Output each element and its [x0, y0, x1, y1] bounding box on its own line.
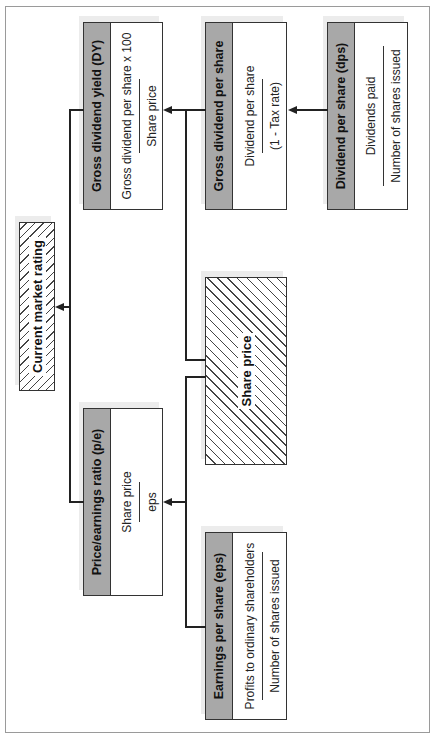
connector-line — [185, 359, 206, 361]
node-pe-ratio: Price/earnings ratio (p/e) Share price e… — [83, 408, 163, 596]
arrow-icon — [288, 106, 297, 114]
formula-numerator: Gross dividend per share x 100 — [120, 29, 137, 204]
connector-line — [296, 109, 328, 111]
node-earnings-per-share: Earnings per share (eps) Profits to ordi… — [205, 532, 287, 720]
arrow-icon — [163, 498, 172, 506]
formula-denominator: (1 - Tax rate) — [265, 82, 282, 150]
fraction-bar — [262, 552, 263, 701]
formula-denominator: Share price — [142, 85, 159, 146]
connector-line — [69, 501, 84, 503]
arrow-icon — [55, 303, 64, 311]
formula-numerator: Share price — [120, 467, 137, 536]
connector-line — [69, 109, 84, 111]
formula-numerator: Profits to ordinary shareholders — [243, 539, 260, 714]
connector-line — [171, 501, 186, 503]
node-title: Gross dividend per share — [206, 23, 233, 209]
node-title: Price/earnings ratio (p/e) — [84, 409, 111, 595]
node-title: Share price — [238, 333, 255, 410]
node-title: Earnings per share (eps) — [206, 533, 233, 719]
fraction-bar — [262, 79, 263, 153]
node-gross-dividend-per-share: Gross dividend per share Dividend per sh… — [205, 22, 287, 210]
node-title: Gross dividend yield (DY) — [84, 23, 111, 209]
node-dividend-per-share: Dividend per share (dps) Dividends paid … — [327, 22, 408, 210]
node-gross-dividend-yield: Gross dividend yield (DY) Gross dividend… — [83, 22, 163, 210]
node-title: Current market rating — [29, 237, 46, 376]
node-title: Dividend per share (dps) — [328, 23, 355, 209]
connector-line — [171, 109, 206, 111]
formula-denominator: Number of shares issued — [265, 559, 282, 692]
node-current-market-rating: Current market rating — [19, 222, 55, 391]
node-share-price: Share price — [205, 277, 287, 465]
formula-numerator: Dividends paid — [364, 73, 381, 160]
fraction-bar — [383, 46, 384, 186]
formula-denominator: Number of shares issued — [386, 49, 403, 182]
fraction-bar — [139, 79, 140, 153]
fraction-bar — [139, 482, 140, 523]
arrow-icon — [163, 106, 172, 114]
formula-numerator: Dividend per share — [243, 62, 260, 171]
diagram-canvas: Current market rating Gross dividend yie… — [0, 0, 438, 737]
connector-line — [185, 626, 206, 628]
formula-denominator: eps — [142, 492, 159, 511]
connector-line — [185, 109, 187, 361]
connector-line — [185, 376, 206, 378]
